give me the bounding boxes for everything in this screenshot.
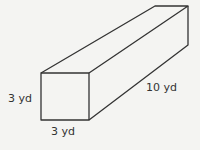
front-face: [41, 73, 89, 120]
height-label: 3 yd: [8, 93, 32, 104]
rectangular-prism: [0, 0, 200, 150]
width-label: 3 yd: [51, 126, 75, 137]
top-face-edges: [41, 6, 188, 73]
length-label: 10 yd: [146, 82, 177, 93]
